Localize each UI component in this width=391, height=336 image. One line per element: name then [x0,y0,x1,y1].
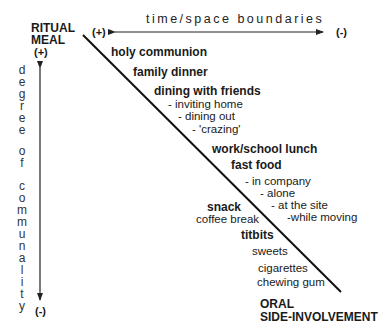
vertical-letter: f [17,157,27,169]
item-holy-communion: holy communion [111,45,207,59]
item-cigarettes: cigarettes [258,262,308,274]
item-titbits: titbits [241,228,274,242]
item-dining-with-friends: dining with friends [154,84,261,98]
horizontal-axis-plus: (+) [92,26,106,38]
item-family-dinner: family dinner [133,65,208,79]
item-at-the-site: - at the site [271,199,328,211]
item-snack: snack [207,200,241,214]
item-in-company: - in company [245,175,311,187]
ritual-meal-label: RITUAL MEAL [31,22,75,46]
item-dining-out: - dining out [178,110,235,122]
vertical-letter: y [17,300,27,312]
horizontal-axis-label: time/space boundaries [146,12,324,26]
item-work-school-lunch: work/school lunch [212,142,317,156]
oral-side-involvement-label: ORAL SIDE-INVOLVEMENT [260,298,378,324]
item-crazing: - 'crazing' [192,123,241,135]
item-chewing-gum: chewing gum [257,276,325,288]
vertical-axis-minus: (-) [35,305,46,317]
vertical-axis-plus: (+) [34,46,48,58]
item-while-moving: -while moving [287,211,357,223]
diagonal-line [83,35,341,292]
vertical-letter: e [17,124,27,136]
item-inviting-home: - inviting home [168,98,243,110]
oral-line-2: SIDE-INVOLVEMENT [260,311,378,324]
item-sweets: sweets [252,245,288,257]
item-alone: - alone [260,187,295,199]
horizontal-axis-minus: (-) [336,26,347,38]
ritual-meal-line-2: MEAL [31,34,75,46]
item-coffee-break: coffee break [196,213,259,225]
item-fast-food: fast food [231,158,282,172]
